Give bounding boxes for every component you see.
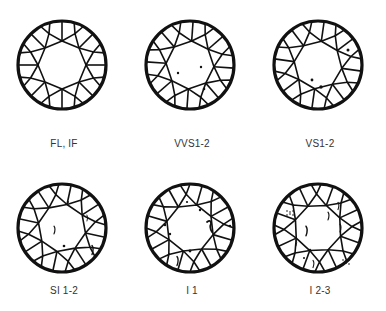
grade-vvs: VVS1-2 — [128, 0, 256, 155]
grade-label: VS1-2 — [256, 138, 384, 149]
diamond-icon — [14, 180, 110, 276]
grade-label: VVS1-2 — [128, 138, 256, 149]
diamond-icon — [142, 180, 238, 276]
diamond-icon — [14, 17, 110, 113]
diamond-icon — [142, 17, 238, 113]
grade-i1: I 1 — [128, 163, 256, 311]
diamond-icon — [270, 180, 366, 276]
grade-i2-3: I 2-3 — [256, 163, 384, 311]
grade-label: I 1 — [128, 285, 256, 296]
grade-label: FL, IF — [0, 138, 128, 149]
grade-vs: VS1-2 — [256, 0, 384, 155]
diamond-icon — [270, 17, 366, 113]
grade-label: SI 1-2 — [0, 285, 128, 296]
grade-si: SI 1-2 — [0, 163, 128, 311]
grade-fl-if: FL, IF — [0, 0, 128, 155]
grade-label: I 2-3 — [256, 285, 384, 296]
